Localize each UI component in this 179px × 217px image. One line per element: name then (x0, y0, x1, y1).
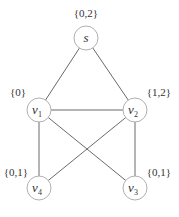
node-v4: v4{0,1} (4, 166, 51, 200)
node-subscript: 4 (38, 188, 42, 197)
node-v3: v3{0,1} (123, 166, 171, 200)
edge-s-v1 (39, 38, 86, 110)
edge-s-v2 (86, 38, 135, 110)
graph-diagram: s{0,2}v1{0}v2{1,2}v4{0,1}v3{0,1} (0, 0, 179, 217)
node-label: s (83, 30, 88, 45)
node-subscript: 1 (38, 110, 42, 119)
node-set-label: {0} (10, 86, 26, 98)
node-set-label: {0,1} (4, 166, 28, 178)
nodes: s{0,2}v1{0}v2{1,2}v4{0,1}v3{0,1} (4, 7, 171, 200)
edges (39, 38, 135, 188)
node-subscript: 3 (134, 188, 138, 197)
node-v1: v1{0} (10, 86, 51, 122)
node-s: s{0,2} (74, 7, 98, 50)
node-set-label: {1,2} (147, 86, 171, 98)
node-set-label: {0,1} (147, 166, 171, 178)
node-subscript: 2 (134, 110, 138, 119)
node-set-label: {0,2} (74, 7, 98, 19)
node-v2: v2{1,2} (123, 86, 171, 122)
